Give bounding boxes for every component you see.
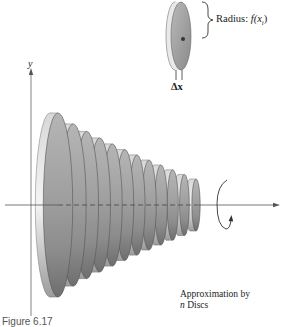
delta-x-label: Δx bbox=[171, 81, 183, 92]
single-disc bbox=[166, 2, 213, 80]
radius-label-prefix: Radius: bbox=[216, 13, 251, 24]
y-axis bbox=[29, 68, 33, 316]
radius-brace-icon bbox=[202, 2, 213, 38]
caption-line-1: Approximation by bbox=[180, 289, 250, 300]
caption: Approximation by n Discs bbox=[180, 289, 250, 311]
radius-label: Radius: f(xi) bbox=[216, 13, 267, 27]
rotation-arrow-icon bbox=[217, 180, 233, 229]
caption-discs: Discs bbox=[185, 300, 209, 310]
y-axis-label: y bbox=[28, 58, 32, 69]
radius-label-close: ) bbox=[264, 13, 268, 24]
radius-label-func: f(x bbox=[251, 13, 262, 24]
caption-line-2: n Discs bbox=[180, 300, 250, 311]
delta-x-text: Δx bbox=[171, 81, 183, 92]
disc-center-dot bbox=[181, 37, 185, 41]
figure-number: Figure 6.17 bbox=[2, 316, 53, 327]
